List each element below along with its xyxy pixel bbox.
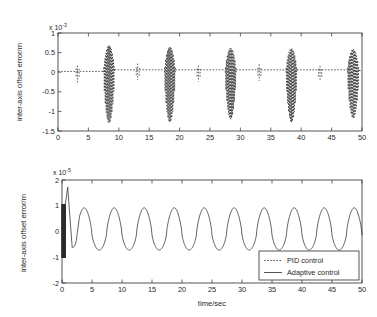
top-plot-frame	[58, 33, 362, 131]
x-tick-label: 5	[90, 285, 94, 294]
adaptive-control-trace	[62, 187, 362, 258]
x-tick-label: 0	[60, 285, 64, 294]
x-tick-label: 30	[236, 133, 244, 142]
pid-burst	[286, 49, 297, 123]
x-tick-label: 25	[208, 285, 216, 294]
pid-burst	[225, 48, 236, 119]
pid-small-spike	[319, 66, 322, 81]
x-tick-label: 40	[298, 285, 306, 294]
x-tick-label: 35	[268, 285, 276, 294]
x-tick-label: 20	[175, 133, 183, 142]
y-tick-label: -1	[48, 107, 55, 116]
y-tick-label: -1.5	[42, 127, 55, 136]
bottom-x-axis-label: time/sec	[198, 299, 226, 308]
x-tick-label: 50	[358, 285, 366, 294]
y-tick-label: 2	[55, 176, 59, 185]
x-tick-label: 15	[148, 285, 156, 294]
x-tick-label: 5	[86, 133, 90, 142]
x-tick-label: 45	[327, 133, 335, 142]
x-tick-label: 30	[238, 285, 246, 294]
x-tick-label: 20	[178, 285, 186, 294]
y-tick-label: 0	[51, 68, 55, 77]
y-tick-label: 1	[55, 201, 59, 210]
top-subplot: x 10-3 inter-axis offset error/m 10.50-0…	[15, 22, 366, 142]
pid-small-spike	[197, 66, 200, 82]
bottom-subplot: x 10-5 inter-axis offset error/m 210-1-2…	[19, 167, 366, 308]
top-y-tick-group: 10.50-0.5-1-1.5	[42, 29, 61, 136]
pid-burst	[104, 46, 115, 124]
pid-small-spike	[136, 64, 139, 80]
legend: PID control Adaptive control	[259, 251, 359, 280]
y-tick-label: 0	[55, 227, 59, 236]
pid-burst	[347, 49, 359, 118]
x-tick-label: 40	[297, 133, 305, 142]
bottom-data-traces	[62, 187, 362, 258]
pid-small-spike	[76, 66, 79, 83]
figure-canvas: x 10-3 inter-axis offset error/m 10.50-0…	[0, 0, 377, 317]
top-data-traces	[58, 46, 362, 124]
legend-label-adaptive: Adaptive control	[287, 268, 340, 277]
x-tick-label: 15	[145, 133, 153, 142]
x-tick-label: 35	[267, 133, 275, 142]
x-tick-label: 0	[56, 133, 60, 142]
legend-label-pid: PID control	[287, 256, 323, 265]
y-tick-label: -0.5	[42, 87, 55, 96]
top-y-axis-label: inter-axis offset error/m	[15, 43, 24, 121]
y-tick-label: 1	[51, 29, 55, 38]
x-tick-label: 10	[118, 285, 126, 294]
y-tick-label: -2	[52, 279, 59, 288]
x-tick-label: 45	[328, 285, 336, 294]
pid-burst	[164, 47, 175, 122]
x-tick-label: 10	[115, 133, 123, 142]
y-tick-label: -1	[52, 253, 59, 262]
pid-small-spike	[258, 64, 261, 80]
x-tick-label: 25	[206, 133, 214, 142]
top-x-tick-group: 05101520253035404550	[56, 33, 366, 142]
bottom-y-axis-label: inter-axis offset error/m	[19, 194, 28, 272]
y-tick-label: 0.5	[45, 48, 55, 57]
x-tick-label: 50	[358, 133, 366, 142]
